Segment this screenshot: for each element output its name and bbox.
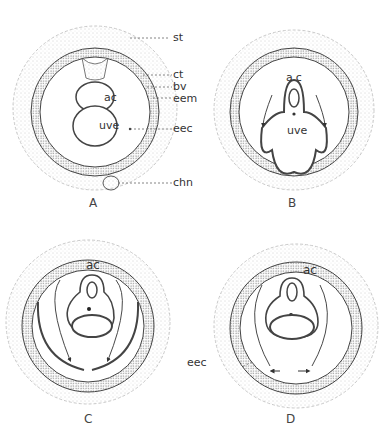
- label-ac-a: ac: [104, 92, 117, 103]
- callout-ct: ct: [173, 69, 183, 80]
- panel-letter-a: A: [89, 196, 97, 210]
- panel-a: [13, 26, 177, 190]
- panel-b: [214, 30, 374, 190]
- label-uve-a: uve: [99, 120, 119, 131]
- panel-letter-c: C: [84, 412, 92, 426]
- callout-eec-d: eec: [187, 357, 207, 368]
- callout-st: st: [173, 32, 183, 43]
- panel-d: [214, 244, 378, 408]
- panel-letter-d: D: [286, 412, 295, 426]
- label-ac-c: ac: [86, 259, 100, 271]
- label-ac-d: ac: [303, 264, 317, 276]
- label-uve-b: uve: [287, 125, 307, 136]
- callout-eec: eec: [173, 123, 193, 134]
- panel-letter-b: B: [288, 196, 296, 210]
- embryo-diagram: [0, 0, 384, 442]
- label-ac-b: ac: [286, 72, 305, 83]
- callout-bv: bv: [173, 81, 187, 92]
- callout-eem: eem: [173, 93, 197, 104]
- callout-chn: chn: [173, 177, 193, 188]
